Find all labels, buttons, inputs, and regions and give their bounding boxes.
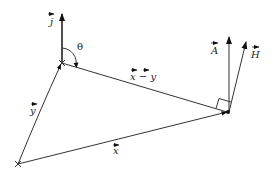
- label-x: x: [113, 145, 119, 156]
- label-A: A: [210, 43, 218, 56]
- vector-diagram: j θ x − y A H y x: [0, 0, 277, 175]
- svg-text:x: x: [113, 145, 119, 156]
- right-vertex-dot: [226, 110, 230, 114]
- svg-text:j: j: [48, 16, 53, 27]
- svg-text:A: A: [210, 45, 218, 56]
- label-theta: θ: [77, 41, 83, 52]
- bottom-left-vertex-cross-icon: [15, 161, 21, 167]
- svg-text:x − y: x − y: [130, 71, 156, 82]
- label-j: j: [48, 14, 54, 27]
- label-H: H: [250, 47, 260, 60]
- vector-H: [229, 42, 246, 112]
- svg-text:H: H: [250, 49, 260, 60]
- label-y: y: [29, 104, 37, 116]
- vector-x: [18, 112, 227, 164]
- svg-text:y: y: [29, 105, 36, 116]
- label-x-minus-y: x − y: [130, 70, 156, 82]
- vector-y: [18, 64, 61, 164]
